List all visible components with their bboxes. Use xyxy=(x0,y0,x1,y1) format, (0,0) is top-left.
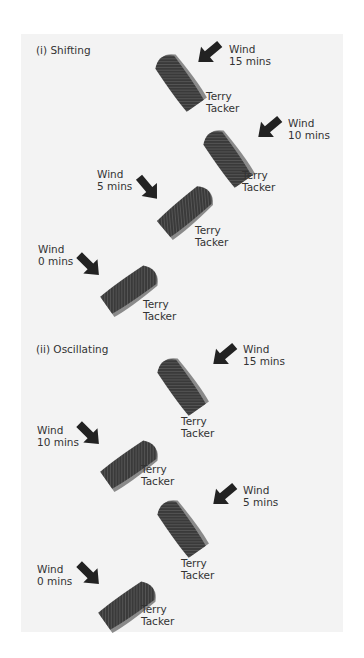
boat-name-first: Terry xyxy=(195,224,221,236)
wind-text: Wind xyxy=(243,484,269,496)
wind-arrow-icon xyxy=(207,478,241,511)
wind-time: 5 mins xyxy=(243,496,278,508)
boat-name-first: Terry xyxy=(143,298,169,310)
boat-label: TerryTacker xyxy=(181,557,214,581)
wind-label: Wind15 mins xyxy=(229,43,271,67)
boat-label: TerryTacker xyxy=(206,90,239,114)
wind-arrow-icon xyxy=(192,36,226,69)
wind-label: Wind10 mins xyxy=(37,424,79,448)
wind-label: Wind0 mins xyxy=(38,243,73,267)
wind-arrow-icon xyxy=(252,111,286,144)
wind-arrow-icon xyxy=(72,248,106,282)
wind-label: Wind10 mins xyxy=(288,117,330,141)
wind-time: 10 mins xyxy=(288,129,330,141)
boat-name-first: Terry xyxy=(181,415,207,427)
boat-name-last: Tacker xyxy=(242,181,275,193)
wind-label: Wind5 mins xyxy=(97,168,132,192)
boat-name-first: Terry xyxy=(181,557,207,569)
boat-oscillating-5 xyxy=(154,495,210,559)
wind-time: 0 mins xyxy=(38,255,73,267)
wind-arrow-icon xyxy=(207,338,241,371)
boat-name-last: Tacker xyxy=(141,475,174,487)
boat-name-last: Tacker xyxy=(141,615,174,627)
boat-label: TerryTacker xyxy=(141,603,174,627)
wind-label: Wind0 mins xyxy=(37,563,72,587)
boat-label: TerryTacker xyxy=(181,415,214,439)
wind-text: Wind xyxy=(288,117,314,129)
boat-name-last: Tacker xyxy=(143,310,176,322)
wind-arrow-icon xyxy=(72,557,106,591)
wind-text: Wind xyxy=(37,424,63,436)
boat-name-first: Terry xyxy=(206,90,232,102)
boat-label: TerryTacker xyxy=(141,463,174,487)
wind-text: Wind xyxy=(37,563,63,575)
wind-time: 15 mins xyxy=(229,55,271,67)
wind-time: 10 mins xyxy=(37,436,79,448)
wind-time: 0 mins xyxy=(37,575,72,587)
boat-name-first: Terry xyxy=(141,463,167,475)
wind-time: 5 mins xyxy=(97,180,132,192)
boat-name-first: Terry xyxy=(242,169,268,181)
wind-label: Wind5 mins xyxy=(243,484,278,508)
wind-text: Wind xyxy=(229,43,255,55)
boat-name-last: Tacker xyxy=(181,569,214,581)
wind-text: Wind xyxy=(38,243,64,255)
boat-label: TerryTacker xyxy=(242,169,275,193)
boat-name-last: Tacker xyxy=(206,102,239,114)
section-title-shifting: (i) Shifting xyxy=(36,44,91,56)
boat-oscillating-15 xyxy=(154,353,210,417)
section-title-oscillating: (ii) Oscillating xyxy=(36,343,108,355)
boat-name-last: Tacker xyxy=(181,427,214,439)
boat-name-first: Terry xyxy=(141,603,167,615)
wind-arrow-icon xyxy=(131,171,164,205)
boat-label: TerryTacker xyxy=(143,298,176,322)
wind-text: Wind xyxy=(97,168,123,180)
boat-name-last: Tacker xyxy=(195,236,228,248)
boat-label: TerryTacker xyxy=(195,224,228,248)
wind-time: 15 mins xyxy=(243,355,285,367)
wind-label: Wind15 mins xyxy=(243,343,285,367)
wind-text: Wind xyxy=(243,343,269,355)
